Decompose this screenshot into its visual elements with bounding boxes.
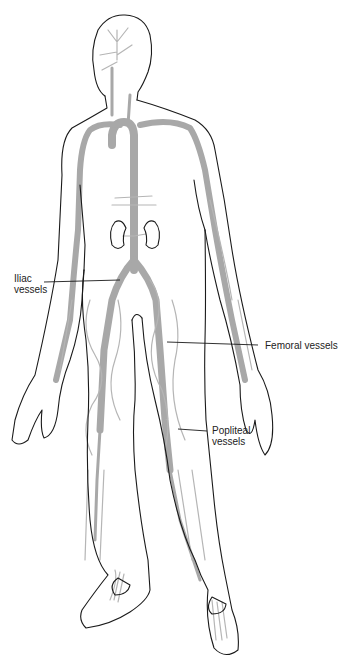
femoral-vessels-label: Femoral vessels	[265, 340, 338, 351]
iliac-leader-line	[44, 280, 120, 282]
popliteal-vessels-label: Popliteal vessels	[212, 425, 250, 447]
iliac-vessels-label: Iliac vessels	[14, 273, 47, 295]
iliac-label-line1: Iliac	[14, 273, 47, 284]
anatomy-figure	[0, 0, 339, 668]
femoral-label-line1: Femoral vessels	[265, 340, 338, 351]
iliac-label-line2: vessels	[14, 284, 47, 295]
femoral-leader-line	[167, 342, 258, 345]
popliteal-label-line2: vessels	[212, 436, 250, 447]
popliteal-label-line1: Popliteal	[212, 425, 250, 436]
popliteal-leader-line	[178, 429, 207, 431]
